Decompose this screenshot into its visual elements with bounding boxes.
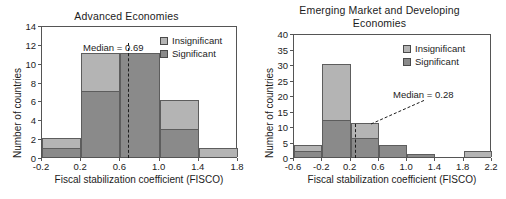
legend-swatch-insignificant-icon bbox=[160, 37, 168, 45]
histogram-segment-significant bbox=[160, 129, 199, 157]
y-tick-mark bbox=[38, 120, 41, 121]
legend-item-insignificant: Insignificant bbox=[160, 35, 222, 46]
median-annotation-advanced-economies: Median = 0.69 bbox=[83, 42, 143, 53]
y-tick-label: 25 bbox=[277, 75, 288, 86]
histogram-segment-insignificant bbox=[81, 53, 120, 91]
x-tick-label: -0.2 bbox=[33, 161, 49, 172]
x-tick-mark bbox=[41, 158, 42, 161]
y-axis-label-emerging-market-economies: Number of countries bbox=[264, 68, 275, 158]
x-tick-mark bbox=[80, 158, 81, 161]
y-tick-label: 15 bbox=[277, 106, 288, 117]
histogram-bar bbox=[379, 145, 407, 157]
legend-label-insignificant: Insignificant bbox=[415, 43, 465, 54]
panel-advanced-economies: Advanced Economies 02468101214 -0.20.20.… bbox=[0, 0, 253, 199]
x-tick-label: 1.8 bbox=[230, 161, 243, 172]
y-tick-label: 6 bbox=[31, 96, 36, 107]
y-tick-mark bbox=[290, 127, 293, 128]
legend-item-insignificant: Insignificant bbox=[403, 43, 465, 54]
legend-emerging-market-economies: Insignificant Significant bbox=[403, 43, 465, 67]
y-tick-mark bbox=[38, 101, 41, 102]
legend-swatch-significant-icon bbox=[403, 58, 411, 66]
y-tick-mark bbox=[290, 50, 293, 51]
legend-item-significant: Significant bbox=[403, 56, 465, 67]
histogram-segment-insignificant bbox=[160, 100, 199, 128]
y-tick-mark bbox=[38, 83, 41, 84]
figure-two-panel-histograms: Advanced Economies 02468101214 -0.20.20.… bbox=[0, 0, 506, 199]
panel-title-line-1: Emerging Market and Developing bbox=[253, 4, 506, 17]
histogram-segment-significant bbox=[379, 145, 407, 157]
x-tick-mark bbox=[406, 158, 407, 161]
y-tick-mark bbox=[38, 26, 41, 27]
x-tick-mark bbox=[237, 158, 238, 161]
legend-swatch-insignificant-icon bbox=[403, 45, 411, 53]
y-tick-label: 20 bbox=[277, 91, 288, 102]
y-tick-mark bbox=[290, 112, 293, 113]
histogram-segment-significant bbox=[322, 120, 350, 157]
y-tick-mark bbox=[38, 64, 41, 65]
y-tick-label: 8 bbox=[31, 77, 36, 88]
x-tick-label: -0.6 bbox=[285, 161, 301, 172]
y-tick-label: 2 bbox=[31, 134, 36, 145]
histogram-segment-insignificant bbox=[464, 151, 492, 157]
median-annotation-emerging-market-economies: Median = 0.28 bbox=[393, 89, 453, 100]
median-line-emerging-market-economies bbox=[355, 124, 356, 158]
panel-emerging-market-economies: Emerging Market and Developing Economies… bbox=[253, 0, 506, 199]
x-tick-label: 1.0 bbox=[152, 161, 165, 172]
histogram-bar bbox=[42, 138, 81, 157]
x-tick-label: 0.6 bbox=[371, 161, 384, 172]
legend-item-significant: Significant bbox=[160, 48, 222, 59]
y-tick-mark bbox=[290, 96, 293, 97]
panel-title-advanced-economies: Advanced Economies bbox=[0, 10, 253, 23]
histogram-bar bbox=[81, 53, 120, 157]
y-tick-label: 10 bbox=[25, 58, 36, 69]
y-tick-mark bbox=[290, 34, 293, 35]
histogram-segment-insignificant bbox=[199, 148, 238, 157]
legend-advanced-economies: Insignificant Significant bbox=[160, 35, 222, 59]
histogram-segment-insignificant bbox=[322, 64, 350, 120]
histogram-segment-insignificant bbox=[294, 145, 322, 151]
histogram-bar bbox=[160, 100, 199, 157]
x-tick-mark bbox=[198, 158, 199, 161]
x-tick-label: 0.6 bbox=[113, 161, 126, 172]
histogram-bar bbox=[322, 64, 350, 157]
x-tick-mark bbox=[159, 158, 160, 161]
x-tick-label: 2.2 bbox=[484, 161, 497, 172]
histogram-bar bbox=[294, 145, 322, 157]
histogram-bar bbox=[120, 53, 159, 157]
y-tick-mark bbox=[290, 81, 293, 82]
y-tick-mark bbox=[290, 143, 293, 144]
y-axis-label-advanced-economies: Number of countries bbox=[12, 68, 23, 158]
histogram-segment-significant bbox=[407, 154, 435, 157]
x-tick-mark bbox=[463, 158, 464, 161]
x-tick-label: 0.2 bbox=[343, 161, 356, 172]
x-tick-mark bbox=[350, 158, 351, 161]
x-tick-label: -0.2 bbox=[313, 161, 329, 172]
x-tick-label: 0.2 bbox=[74, 161, 87, 172]
histogram-segment-significant bbox=[81, 91, 120, 157]
panel-title-line-2: Economies bbox=[253, 17, 506, 30]
legend-swatch-significant-icon bbox=[160, 50, 168, 58]
y-tick-label: 14 bbox=[25, 21, 36, 32]
x-axis-label-advanced-economies: Fiscal stabilization coefficient (FISCO) bbox=[41, 174, 237, 185]
x-tick-mark bbox=[119, 158, 120, 161]
median-line-advanced-economies bbox=[128, 43, 129, 158]
histogram-segment-significant bbox=[42, 148, 81, 157]
y-tick-label: 4 bbox=[31, 115, 36, 126]
histogram-bar bbox=[407, 154, 435, 157]
y-tick-label: 35 bbox=[277, 44, 288, 55]
histogram-bar bbox=[199, 148, 238, 157]
histogram-segment-significant bbox=[120, 53, 159, 157]
y-tick-mark bbox=[290, 65, 293, 66]
x-tick-mark bbox=[378, 158, 379, 161]
x-tick-mark bbox=[321, 158, 322, 161]
x-tick-mark bbox=[434, 158, 435, 161]
x-tick-label: 1.8 bbox=[456, 161, 469, 172]
y-tick-label: 40 bbox=[277, 29, 288, 40]
legend-label-significant: Significant bbox=[172, 48, 216, 59]
x-tick-mark bbox=[293, 158, 294, 161]
y-tick-label: 10 bbox=[277, 122, 288, 133]
histogram-segment-significant bbox=[294, 151, 322, 157]
x-axis-label-emerging-market-economies: Fiscal stabilization coefficient (FISCO) bbox=[293, 174, 491, 185]
histogram-bar bbox=[464, 151, 492, 157]
y-tick-label: 30 bbox=[277, 60, 288, 71]
